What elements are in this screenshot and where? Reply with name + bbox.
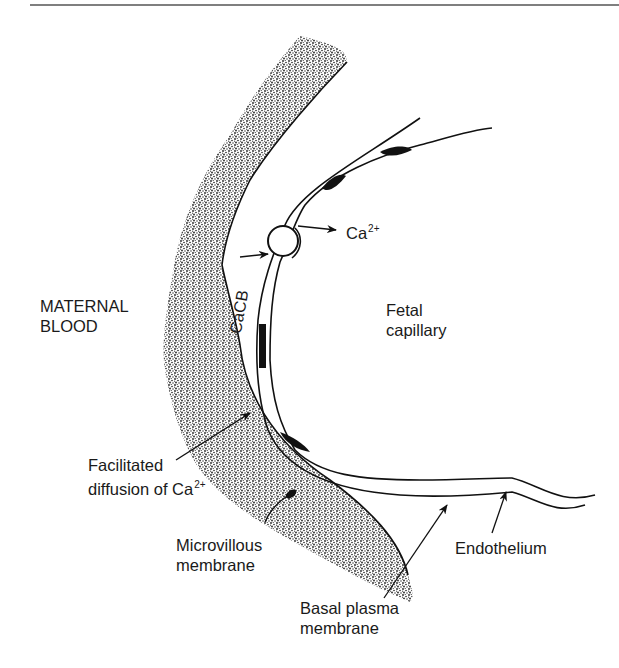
facilitated-line2-text: diffusion of Ca — [88, 480, 193, 498]
label-fetal-line1: Fetal — [386, 300, 447, 320]
arrow-into-vesicle — [240, 254, 268, 257]
label-fetal-line2: capillary — [386, 320, 447, 340]
calcium-vesicle — [268, 226, 298, 256]
basal-line2: membrane — [300, 618, 399, 638]
microvillous-line2: membrane — [176, 555, 262, 575]
placental-calcium-transport-diagram: MATERNAL BLOOD Fetal capillary CaCB Ca2+… — [0, 0, 619, 668]
basal-line1: Basal plasma — [300, 598, 399, 618]
facilitated-line2: diffusion of Ca2+ — [88, 475, 206, 499]
label-maternal-line2: BLOOD — [40, 316, 129, 336]
label-endothelium: Endothelium — [455, 538, 547, 558]
leader-endothelium — [492, 492, 506, 533]
trophoblast-band — [164, 36, 413, 602]
ca-ion-charge: 2+ — [368, 223, 379, 234]
label-fetal-capillary: Fetal capillary — [386, 300, 447, 340]
label-facilitated-diffusion: Facilitated diffusion of Ca2+ — [88, 455, 206, 499]
arrow-ca-out — [298, 226, 336, 230]
ca-ion-base: Ca — [346, 224, 367, 242]
label-microvillous-membrane: Microvillous membrane — [176, 535, 262, 575]
label-basal-plasma-membrane: Basal plasma membrane — [300, 598, 399, 638]
label-maternal-blood: MATERNAL BLOOD — [40, 296, 129, 336]
label-maternal-line1: MATERNAL — [40, 296, 129, 316]
endothelial-nucleus-3 — [259, 324, 266, 368]
label-ca-ion: Ca2+ — [346, 219, 380, 243]
facilitated-charge: 2+ — [194, 479, 205, 490]
facilitated-line1: Facilitated — [88, 455, 206, 475]
endothelial-nucleus-1 — [380, 147, 412, 156]
microvillous-line1: Microvillous — [176, 535, 262, 555]
